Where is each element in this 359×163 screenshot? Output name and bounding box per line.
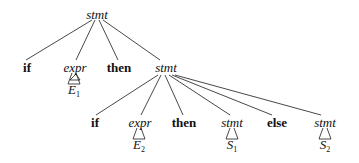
l2-stmt-subtree-s1: S1 [227,138,238,155]
l2-else: else [267,116,287,129]
subtree-subscript: 2 [141,145,145,154]
subtree-letter: E [68,82,76,97]
l1-if: if [23,61,31,74]
l2-expr-subtree-e2: E2 [133,138,145,155]
subtree-letter: E [133,137,141,152]
subtree-subscript: 2 [326,145,330,154]
l1-stmt: stmt [155,61,177,74]
root-stmt: stmt [86,8,108,21]
l1-expr: expr [63,61,86,74]
l2-stmt-s2: stmt [314,116,336,129]
l2-stmt-s1: stmt [221,116,243,129]
l1-then: then [107,61,132,74]
subtree-subscript: 1 [233,145,237,154]
l2-stmt-subtree-s2: S2 [320,138,331,155]
l2-expr: expr [128,116,151,129]
l2-then: then [172,116,197,129]
tree-edges [0,0,359,163]
l1-expr-subtree-e1: E1 [68,83,80,100]
l2-if: if [91,116,99,129]
subtree-subscript: 1 [76,90,80,99]
